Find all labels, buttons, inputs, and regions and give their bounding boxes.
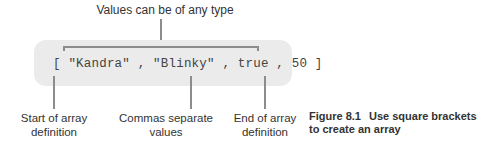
start-connector xyxy=(53,76,55,109)
values-callout-label: Values can be of any type xyxy=(0,3,330,17)
commas-callout-line1: Commas separate xyxy=(116,111,216,125)
figure-caption: Figure 8.1Use square brackets to create … xyxy=(309,110,477,136)
caption-line1: Use square brackets xyxy=(369,110,477,122)
end-connector xyxy=(264,76,266,109)
values-bracket-right-tick xyxy=(257,46,259,51)
commas-callout-line2: values xyxy=(116,125,216,139)
commas-callout: Commas separate values xyxy=(116,111,216,139)
values-bracket-left-tick xyxy=(63,46,65,51)
caption-line2: to create an array xyxy=(309,123,477,136)
end-callout: End of array definition xyxy=(226,111,304,139)
start-callout-line1: Start of array xyxy=(14,111,94,125)
start-callout-line2: definition xyxy=(14,125,94,139)
end-callout-line2: definition xyxy=(226,125,304,139)
figure-number: Figure 8.1 xyxy=(309,110,361,122)
start-callout: Start of array definition xyxy=(14,111,94,139)
end-callout-line1: End of array xyxy=(226,111,304,125)
commas-connector xyxy=(190,76,192,109)
values-bracket-horizontal xyxy=(63,46,259,48)
array-code: [ "Kandra" , "Blinky" , true , 50 ] xyxy=(53,57,323,71)
